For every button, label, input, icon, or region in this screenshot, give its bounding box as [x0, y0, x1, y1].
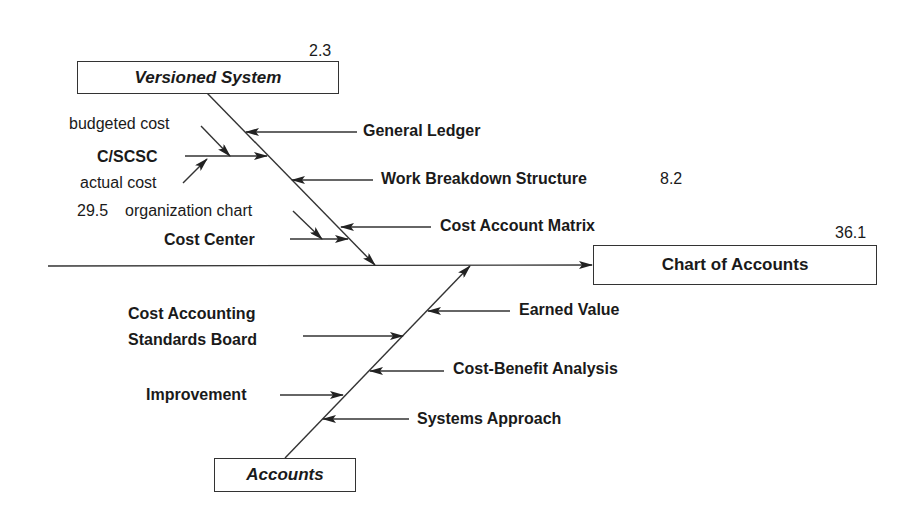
value-org-chart: 29.5 [77, 202, 108, 220]
cause-cost-benefit-analysis: Cost-Benefit Analysis [453, 360, 618, 378]
value-wbs: 8.2 [660, 170, 682, 188]
cause-casb-line2: Standards Board [128, 331, 257, 349]
subcause-budgeted-cost: budgeted cost [69, 115, 170, 133]
arrow-org-chart [293, 211, 322, 239]
cause-casb-line1: Cost Accounting [128, 305, 255, 323]
category-label: Versioned System [135, 68, 282, 88]
cause-improvement: Improvement [146, 386, 246, 404]
spine-line [48, 265, 592, 266]
cause-work-breakdown-structure: Work Breakdown Structure [381, 170, 587, 188]
category-box-accounts: Accounts [214, 458, 356, 492]
effect-label: Chart of Accounts [662, 255, 809, 275]
cause-earned-value: Earned Value [519, 301, 620, 319]
value-versioned-system: 2.3 [309, 42, 331, 60]
arrow-actual-cost [183, 159, 207, 183]
cause-general-ledger: General Ledger [363, 122, 480, 140]
cause-cscsc: C/SCSC [97, 148, 157, 166]
bone-accounts [285, 266, 470, 458]
cause-systems-approach: Systems Approach [417, 410, 561, 428]
cause-cost-account-matrix: Cost Account Matrix [440, 217, 595, 235]
subcause-organization-chart: organization chart [125, 202, 252, 220]
category-label: Accounts [246, 465, 323, 485]
arrow-budgeted-cost [201, 126, 230, 156]
cause-cost-center: Cost Center [164, 231, 255, 249]
subcause-actual-cost: actual cost [80, 174, 156, 192]
value-chart-of-accounts: 36.1 [835, 224, 866, 242]
effect-box-chart-of-accounts: Chart of Accounts [593, 245, 877, 285]
category-box-versioned-system: Versioned System [77, 61, 339, 94]
